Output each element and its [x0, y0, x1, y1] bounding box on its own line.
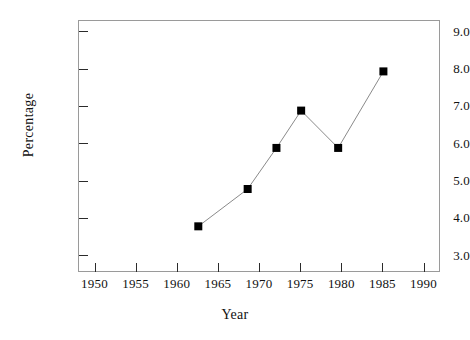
- y-tick-mark: [79, 218, 88, 219]
- y-tick-mark: [79, 255, 88, 256]
- x-tick-mark: [136, 263, 137, 272]
- y-tick-label: 4.0: [428, 211, 470, 224]
- series-markers-percentage: [194, 67, 387, 230]
- x-tick-mark: [259, 263, 260, 272]
- y-tick-label: 9.0: [428, 25, 470, 38]
- y-tick-mark: [79, 106, 88, 107]
- y-tick-mark: [79, 69, 88, 70]
- y-axis-title: Percentage: [22, 70, 36, 180]
- x-tick-mark: [177, 263, 178, 272]
- data-point-marker: [272, 144, 280, 152]
- y-tick-label: 6.0: [428, 137, 470, 150]
- plot-area: [78, 20, 440, 272]
- x-tick-mark: [95, 263, 96, 272]
- x-tick-label: 1990: [394, 277, 454, 290]
- y-tick-label: 3.0: [428, 249, 470, 262]
- y-tick-mark: [79, 143, 88, 144]
- line-chart-figure: 3.04.05.06.07.08.09.0 195019551960196519…: [0, 0, 470, 340]
- y-tick-mark: [79, 181, 88, 182]
- data-point-marker: [194, 222, 202, 230]
- x-tick-mark: [300, 263, 301, 272]
- y-tick-label: 7.0: [428, 99, 470, 112]
- data-point-marker: [244, 185, 252, 193]
- y-tick-mark: [79, 31, 88, 32]
- data-point-marker: [297, 107, 305, 115]
- x-tick-mark: [341, 263, 342, 272]
- y-tick-label: 8.0: [428, 62, 470, 75]
- x-axis-title: Year: [0, 308, 470, 322]
- plot-series-svg: [79, 21, 441, 273]
- x-tick-mark: [218, 263, 219, 272]
- data-point-marker: [379, 67, 387, 75]
- series-line-percentage: [198, 71, 383, 226]
- x-tick-mark: [382, 263, 383, 272]
- y-tick-label: 5.0: [428, 174, 470, 187]
- data-point-marker: [334, 144, 342, 152]
- x-tick-mark: [424, 263, 425, 272]
